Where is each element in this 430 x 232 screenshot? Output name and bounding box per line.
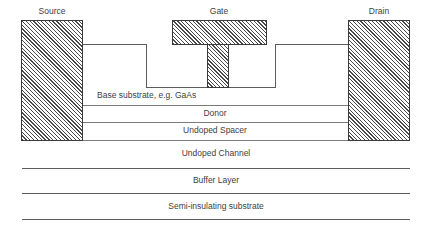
surface-line-right — [275, 44, 349, 45]
divider-donor-spacer — [82, 122, 348, 123]
trench-left-wall — [146, 44, 147, 88]
layer-label-base-substrate: Base substrate, e.g. GaAs — [97, 90, 196, 101]
divider-buffer-substrate — [22, 193, 410, 194]
gate-electrode-cap — [172, 20, 267, 45]
layer-label-buffer-layer: Buffer Layer — [22, 175, 410, 186]
drain-electrode — [348, 20, 410, 141]
divider-channel-buffer — [22, 168, 410, 169]
trench-floor-left — [146, 87, 207, 88]
layer-label-donor: Donor — [82, 108, 348, 119]
hemt-cross-section-diagram: Source Gate Drain Base substrate, e.g. G… — [0, 0, 430, 232]
layer-label-semi-insulating-substrate: Semi-insulating substrate — [22, 201, 410, 212]
divider-substrate-bottom — [22, 219, 410, 220]
gate-electrode-stem — [207, 44, 229, 88]
divider-spacer-channel — [82, 140, 348, 141]
layer-label-undoped-channel: Undoped Channel — [22, 148, 410, 159]
source-electrode — [21, 20, 83, 141]
gate-label: Gate — [189, 6, 249, 17]
drain-label: Drain — [348, 6, 410, 17]
surface-line-left — [82, 44, 147, 45]
divider-base-donor — [82, 105, 348, 106]
source-label: Source — [21, 6, 83, 17]
trench-floor-right — [228, 87, 276, 88]
trench-right-wall — [275, 44, 276, 88]
layer-label-undoped-spacer: Undoped Spacer — [82, 125, 348, 136]
